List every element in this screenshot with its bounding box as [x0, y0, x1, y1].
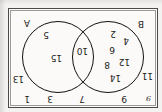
right-only-number: 5	[43, 30, 49, 39]
outside-number: 13	[13, 74, 24, 83]
intersection-number: 10	[77, 46, 88, 55]
scanned-page-rotated: 9 9 7 3 1 11 13 14 12 8 6 4 2 10	[0, 0, 162, 112]
right-only-number: 15	[51, 53, 62, 62]
outside-number: 9	[121, 94, 127, 103]
venn-diagram-screenshot: 9 9 7 3 1 11 13 14 12 8 6 4 2 10	[0, 0, 162, 112]
venn-stage: 9 7 3 1 11 13 14 12 8 6 4 2 10 15 5 B	[9, 9, 157, 107]
outside-number: 1	[24, 94, 30, 103]
outside-number: 11	[142, 71, 153, 80]
left-only-number: 14	[110, 73, 121, 82]
left-only-number: 4	[123, 36, 129, 45]
left-only-number: 6	[109, 45, 115, 54]
outside-number: 7	[79, 94, 85, 103]
set-label-b: B	[138, 19, 144, 28]
paper-frame: 9 9 7 3 1 11 13 14 12 8 6 4 2 10	[8, 8, 158, 108]
left-only-number: 12	[119, 57, 130, 66]
left-only-number: 2	[110, 29, 116, 38]
left-only-number: 8	[104, 60, 110, 69]
set-label-a: A	[24, 18, 30, 27]
outside-number: 3	[47, 94, 53, 103]
